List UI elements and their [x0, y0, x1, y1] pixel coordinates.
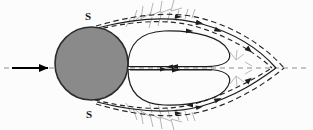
streamline-arrowheads-dashed: [195, 20, 253, 110]
vortex-arrowheads-upper: [166, 29, 194, 69]
cylinder-body: [55, 27, 128, 100]
figure-canvas: S S: [0, 0, 313, 130]
streamline-arrowheads-outer: [175, 14, 223, 115]
separation-label-bottom: S: [86, 109, 92, 120]
separation-label-top: S: [85, 11, 91, 22]
vortex-arrowheads-lower: [160, 67, 193, 107]
flow-diagram: [0, 0, 313, 130]
vortex-loop-upper: [128, 31, 230, 67]
